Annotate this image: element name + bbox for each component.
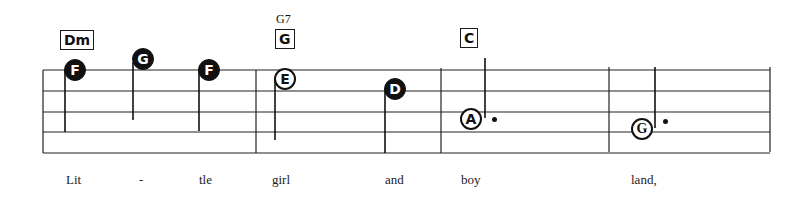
chord-dm: Dm — [60, 30, 94, 50]
lyric: boy — [461, 172, 481, 188]
music-sheet: Dm G7 G C F G F E D A G Lit - tle girl a… — [0, 0, 806, 198]
staff — [0, 0, 806, 198]
lyric: Lit — [66, 172, 81, 188]
lyric: tle — [199, 172, 212, 188]
note-e: E — [274, 68, 296, 90]
chord-alt-g7: G7 — [276, 12, 291, 27]
note-stems — [65, 58, 655, 153]
note-f: F — [198, 59, 220, 81]
note-a: A — [460, 108, 482, 130]
note-d: D — [384, 78, 406, 100]
note-g: G — [631, 118, 653, 140]
chord-c: C — [460, 28, 478, 48]
lyric: - — [139, 172, 143, 188]
note-g: G — [132, 48, 154, 70]
dot-icon — [663, 119, 668, 124]
lyric: and — [385, 172, 404, 188]
note-f: F — [64, 59, 86, 81]
lyric: girl — [272, 172, 290, 188]
lyric: land, — [631, 172, 657, 188]
chord-g: G — [275, 29, 295, 49]
dot-icon — [492, 117, 497, 122]
